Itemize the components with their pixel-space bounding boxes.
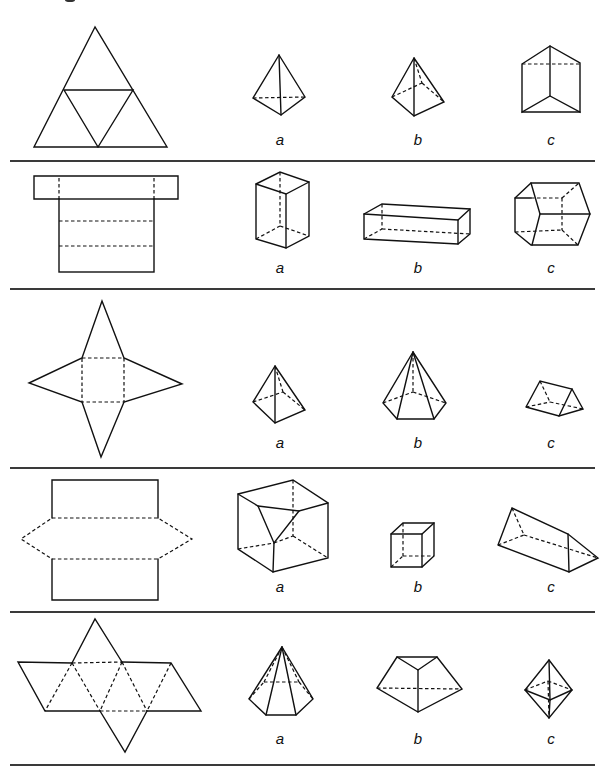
worksheet: a b c — [0, 0, 610, 768]
option-label-c: c — [541, 730, 561, 747]
net-octahedron-icon — [18, 619, 201, 752]
option-label-b: b — [408, 730, 428, 747]
hexagonal-pyramid-icon — [249, 647, 313, 715]
pentagonal-wedge-icon — [377, 657, 462, 712]
row-5-figures — [0, 0, 610, 768]
octahedron-icon — [525, 660, 572, 718]
option-label-a: a — [270, 730, 290, 747]
